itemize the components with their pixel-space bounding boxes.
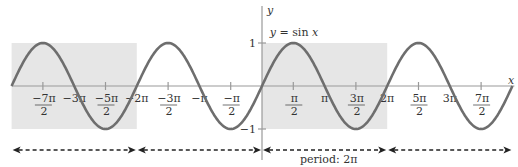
x-tick-numerator: 7π	[475, 92, 489, 105]
x-tick-denominator: 2	[166, 105, 173, 118]
arrow-head-right	[503, 147, 511, 154]
function-label: y = sin x	[269, 26, 319, 39]
arrow-head-right	[128, 147, 136, 154]
x-axis-label: x	[508, 74, 515, 87]
function-label-part: x	[312, 26, 319, 39]
x-tick-numerator: 3π	[350, 92, 364, 105]
x-tick-denominator: 2	[416, 105, 423, 118]
x-tick-numerator: −π	[223, 92, 239, 105]
x-tick-denominator: 2	[291, 105, 298, 118]
sine-diagram: 1−1 −7π2−3π−5π2−2π−3π2−π−π2π2π3π22π5π23π…	[0, 0, 518, 167]
period-arrow	[388, 147, 511, 154]
x-tick-denominator: 2	[353, 105, 360, 118]
x-tick-denominator: 2	[40, 105, 47, 118]
y-axis-label: y	[266, 4, 274, 17]
x-tick-numerator: −5π	[95, 92, 118, 105]
y-tick-label: −1	[240, 123, 256, 136]
arrow-head-right	[253, 147, 261, 154]
period-label: period: 2π	[300, 153, 357, 166]
x-tick-numerator: π	[291, 92, 298, 105]
x-tick-denominator: 2	[103, 105, 110, 118]
y-tick-label: 1	[249, 37, 256, 50]
arrow-head-right	[378, 147, 386, 154]
period-arrow	[138, 147, 261, 154]
x-tick-numerator: −7π	[32, 92, 55, 105]
function-label-part: y	[269, 26, 280, 39]
x-tick-denominator: 2	[479, 105, 486, 118]
period-arrow	[13, 147, 136, 154]
function-label-part: = sin	[280, 26, 312, 39]
x-tick-denominator: 2	[228, 105, 235, 118]
x-tick-numerator: 5π	[412, 92, 426, 105]
x-tick-numerator: −3π	[157, 92, 180, 105]
